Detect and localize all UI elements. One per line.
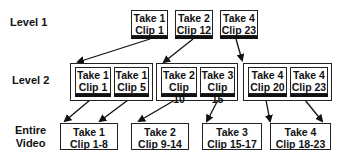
level2-clip: Take 4 Clip 23 (290, 67, 328, 94)
clip-label: Clip 12 (176, 24, 212, 36)
clip-bar (200, 94, 235, 97)
clip-bar (75, 94, 111, 97)
take-label: Take 2 (132, 126, 188, 138)
take-label: Take 4 (291, 69, 327, 81)
level2-clip: Take 4 Clip 20 (248, 67, 287, 94)
level2-group-3: Take 4 Clip 20 Take 4 Clip 23 (243, 63, 332, 101)
clip-bar (290, 94, 328, 97)
clip-bar (248, 94, 287, 97)
entire-video-segment-2: Take 2 Clip 9-14 (131, 123, 189, 150)
level2-group-2: Take 2 Clip 10 Take 3 Clip 15 (156, 63, 238, 101)
level1-clip-3: Take 4 Clip 23 (220, 10, 258, 36)
level2-clip: Take 2 Clip 10 (161, 67, 197, 94)
clip-bar (220, 36, 258, 39)
clip-label: Clip 10 (162, 81, 196, 105)
clip-label: Clip 15 (201, 81, 234, 105)
take-label: Take 3 (201, 69, 234, 81)
clip-label: Clip 23 (291, 81, 327, 93)
take-label: Take 1 (132, 12, 167, 24)
level2-clip: Take 3 Clip 15 (200, 67, 235, 94)
clip-label: Clip 1 (76, 81, 110, 93)
take-label: Take 4 (221, 12, 257, 24)
level2-group-1: Take 1 Clip 1 Take 1 Clip 5 (70, 63, 153, 101)
clip-label: Clip 1-8 (61, 138, 117, 150)
clip-bar (161, 94, 197, 97)
level1-clip-1: Take 1 Clip 1 (131, 10, 168, 36)
take-label: Take 1 (115, 69, 148, 81)
take-label: Take 1 (61, 126, 117, 138)
clip-bar (131, 36, 168, 39)
take-label: Take 2 (162, 69, 196, 81)
clip-label: Clip 1 (132, 24, 167, 36)
take-label: Take 3 (203, 126, 261, 138)
take-label: Take 2 (176, 12, 212, 24)
entire-video-segment-3: Take 3 Clip 15-17 (202, 123, 262, 150)
clip-label: Clip 15-17 (203, 138, 261, 150)
clip-label: Clip 18-23 (271, 138, 330, 150)
clip-label: Clip 23 (221, 24, 257, 36)
entire-video-segment-4: Take 4 Clip 18-23 (270, 123, 331, 150)
level1-clip-2: Take 2 Clip 12 (175, 10, 213, 36)
level2-clip: Take 1 Clip 5 (114, 67, 149, 94)
clip-label: Clip 20 (249, 81, 286, 93)
clip-bar (114, 94, 149, 97)
clip-label: Clip 9-14 (132, 138, 188, 150)
clip-label: Clip 5 (115, 81, 148, 93)
take-label: Take 1 (76, 69, 110, 81)
take-label: Take 4 (271, 126, 330, 138)
entire-video-segment-1: Take 1 Clip 1-8 (60, 123, 118, 150)
clip-bar (175, 36, 213, 39)
take-label: Take 4 (249, 69, 286, 81)
level2-clip: Take 1 Clip 1 (75, 67, 111, 94)
